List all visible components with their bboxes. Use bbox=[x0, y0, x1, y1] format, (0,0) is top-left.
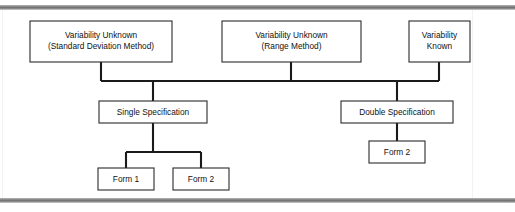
node-variability-known[interactable]: VariabilityKnown bbox=[409, 21, 470, 62]
node-label-variability-unknown-range-line1: Variability Unknown bbox=[255, 30, 328, 40]
node-label-single-specification-line1: Single Specification bbox=[117, 107, 190, 117]
figure-root: Variability Unknown(Standard Deviation M… bbox=[0, 0, 515, 212]
node-label-double-form-2-line1: Form 2 bbox=[384, 147, 411, 157]
node-label-single-form-1-line1: Form 1 bbox=[113, 174, 140, 184]
node-single-specification[interactable]: Single Specification bbox=[99, 101, 207, 123]
node-variability-unknown-sd[interactable]: Variability Unknown(Standard Deviation M… bbox=[30, 21, 172, 62]
node-label-variability-known-line2: Known bbox=[427, 41, 453, 51]
node-label-variability-unknown-sd-line2: (Standard Deviation Method) bbox=[48, 41, 154, 51]
node-double-specification[interactable]: Double Specification bbox=[341, 101, 453, 123]
node-label-variability-known-line1: Variability bbox=[422, 30, 458, 40]
node-variability-unknown-range[interactable]: Variability Unknown(Range Method) bbox=[222, 21, 361, 62]
node-double-form-2[interactable]: Form 2 bbox=[369, 141, 425, 163]
node-label-single-form-2-line1: Form 2 bbox=[188, 174, 215, 184]
node-single-form-1[interactable]: Form 1 bbox=[98, 168, 154, 190]
hierarchy-diagram: Variability Unknown(Standard Deviation M… bbox=[0, 0, 515, 212]
node-single-form-2[interactable]: Form 2 bbox=[173, 168, 229, 190]
node-label-variability-unknown-range-line2: (Range Method) bbox=[262, 41, 322, 51]
node-label-double-specification-line1: Double Specification bbox=[359, 107, 435, 117]
diagram-nodes: Variability Unknown(Standard Deviation M… bbox=[30, 21, 470, 190]
node-label-variability-unknown-sd-line1: Variability Unknown bbox=[65, 30, 138, 40]
